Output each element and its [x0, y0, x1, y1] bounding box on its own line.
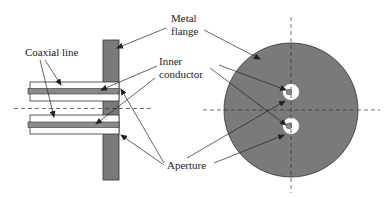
- label-metal-flange-1: Metal: [171, 12, 197, 24]
- label-metal-flange-2: flange: [171, 25, 199, 37]
- inner-conductor-upper: [28, 89, 119, 95]
- coaxial-flange-diagram: Coaxial line Metal flange Inner conducto…: [0, 0, 391, 198]
- label-aperture: Aperture: [167, 159, 206, 171]
- label-inner-conductor-2: conductor: [159, 68, 203, 80]
- label-coaxial-line: Coaxial line: [25, 46, 79, 58]
- metal-flange-side: [103, 40, 119, 180]
- inner-conductor-lower: [28, 122, 119, 128]
- side-view: [14, 40, 152, 180]
- label-inner-conductor-1: Inner: [159, 55, 183, 67]
